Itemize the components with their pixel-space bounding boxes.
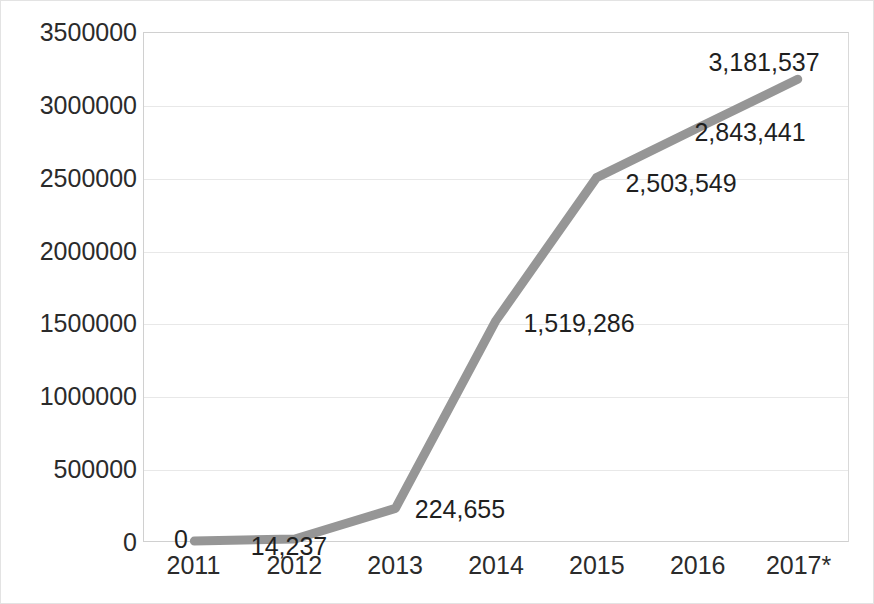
y-axis-tick-label: 500000 [5,457,137,482]
x-axis-tick-label: 2015 [569,553,625,578]
data-point-label: 3,181,537 [708,50,819,75]
y-axis: 0500000100000015000002000000250000030000… [1,1,137,604]
line-chart: 0500000100000015000002000000250000030000… [0,0,874,604]
data-point-label: 224,655 [415,497,505,522]
data-point-label: 2,503,549 [625,171,736,196]
x-axis-tick-label: 2014 [468,553,524,578]
data-point-label: 0 [174,527,188,552]
y-axis-tick-label: 2500000 [5,165,137,190]
data-point-label: 2,843,441 [694,120,805,145]
data-point-label: 1,519,286 [523,311,634,336]
y-axis-tick-label: 1000000 [5,384,137,409]
y-axis-tick-label: 3000000 [5,92,137,117]
y-axis-tick-label: 1500000 [5,311,137,336]
plot-area [143,32,849,542]
x-axis-tick-label: 2011 [167,553,221,578]
x-axis-tick-label: 2016 [670,553,726,578]
y-axis-tick-label: 0 [5,530,137,555]
y-axis-tick-label: 2000000 [5,238,137,263]
y-axis-tick-label: 3500000 [5,20,137,45]
x-axis-tick-label: 2012 [266,553,322,578]
series-polyline [194,79,797,541]
x-axis-tick-label: 2013 [367,553,423,578]
x-axis: 2011201220132014201520162017* [143,553,849,593]
series-line [144,33,848,541]
x-axis-tick-label: 2017* [766,553,831,578]
